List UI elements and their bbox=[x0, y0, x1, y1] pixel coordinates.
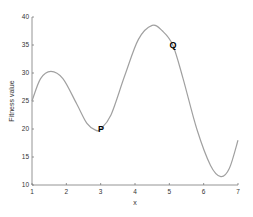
y-tick-label: 35 bbox=[22, 41, 30, 48]
y-tick-label: 10 bbox=[22, 181, 30, 188]
y-tick-label: 20 bbox=[22, 125, 30, 132]
x-tick-label: 4 bbox=[133, 188, 137, 195]
x-tick-label: 7 bbox=[236, 188, 240, 195]
point-p-label: P bbox=[98, 124, 104, 134]
x-tick-label: 3 bbox=[99, 188, 103, 195]
y-tick-label: 40 bbox=[22, 13, 30, 20]
y-tick-label: 15 bbox=[22, 153, 30, 160]
fitness-chart: 10152025303540 1234567 PQ x Fitness valu… bbox=[0, 0, 253, 217]
x-tick-label: 2 bbox=[65, 188, 69, 195]
x-tick-label: 6 bbox=[202, 188, 206, 195]
y-tick-label: 30 bbox=[22, 69, 30, 76]
annotation-points: PQ bbox=[98, 40, 177, 134]
y-tick-label: 25 bbox=[22, 97, 30, 104]
point-q-label: Q bbox=[170, 40, 177, 50]
y-axis-label: Fitness value bbox=[8, 80, 15, 121]
x-tick-label: 1 bbox=[30, 188, 34, 195]
fitness-curve bbox=[32, 25, 238, 177]
axes bbox=[32, 17, 238, 185]
x-axis-label: x bbox=[133, 199, 137, 206]
x-tick-label: 5 bbox=[168, 188, 172, 195]
